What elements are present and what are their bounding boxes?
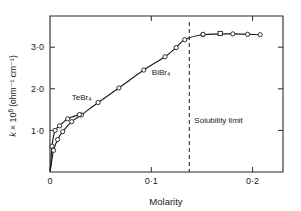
x-axis-ticks	[50, 167, 253, 172]
top-axis-ticks	[151, 16, 252, 21]
y-axis-ticks	[50, 47, 55, 130]
y-tick-label-0: 1·0	[31, 126, 44, 136]
marker-bibr₄-1	[51, 148, 55, 152]
right-axis-ticks	[278, 47, 283, 130]
series-label-bibr4: BiBr₄	[152, 68, 170, 77]
data-markers-group	[50, 31, 262, 152]
x-axis-title: Molarity	[149, 196, 183, 207]
y-axis-symbol: k	[8, 132, 18, 137]
x-tick-label-0: 0	[47, 176, 52, 186]
y-tick-label-1: 2·0	[31, 84, 44, 94]
series-label-tebr4: TeBr₄	[72, 93, 92, 102]
marker-bibr₄-14	[258, 33, 262, 37]
marker-tebr₄-1	[50, 144, 54, 148]
series-line-tebr4	[51, 115, 80, 170]
y-axis-units: (ohm⁻¹ cm⁻¹)	[8, 55, 18, 107]
plateau-marker-circle-2	[245, 32, 249, 36]
y-tick-label-2: 3·0	[31, 42, 44, 52]
y-axis-factor: × 10	[8, 112, 18, 130]
marker-tebr₄-4	[66, 117, 70, 121]
y-tick-labels: 1·02·03·0	[31, 42, 44, 135]
figure-container: BiBr₄ TeBr₄ Solubility limit 00·10·2 1·0…	[0, 0, 301, 211]
marker-bibr₄-8	[142, 68, 146, 72]
x-tick-label-1: 0·1	[145, 176, 158, 186]
x-tick-labels: 00·10·2	[47, 176, 259, 186]
marker-tebr₄-5	[77, 112, 81, 116]
y-axis-title-group: k× 106(ohm⁻¹ cm⁻¹)	[7, 55, 18, 137]
plateau-marker-circle-0	[201, 32, 205, 36]
marker-bibr₄-13	[231, 32, 235, 36]
svg-text:k× 106(ohm⁻¹ cm⁻¹): k× 106(ohm⁻¹ cm⁻¹)	[7, 55, 18, 137]
marker-bibr₄-3	[61, 130, 65, 134]
marker-bibr₄-6	[96, 100, 100, 104]
marker-bibr₄-4	[70, 120, 74, 124]
marker-bibr₄-2	[56, 137, 60, 141]
marker-tebr₄-3	[58, 124, 62, 128]
solubility-limit-label: Solubility limit	[194, 116, 243, 125]
marker-bibr₄-7	[117, 86, 121, 90]
marker-bibr₄-9	[163, 55, 167, 59]
marker-bibr₄-11	[183, 38, 187, 42]
y-axis-exponent: 6	[7, 108, 14, 112]
conductivity-vs-molarity-chart: BiBr₄ TeBr₄ Solubility limit 00·10·2 1·0…	[0, 0, 301, 211]
marker-bibr₄-10	[174, 46, 178, 50]
plateau-marker-square-1	[218, 31, 222, 35]
marker-tebr₄-2	[53, 128, 57, 132]
x-tick-label-2: 0·2	[246, 176, 259, 186]
